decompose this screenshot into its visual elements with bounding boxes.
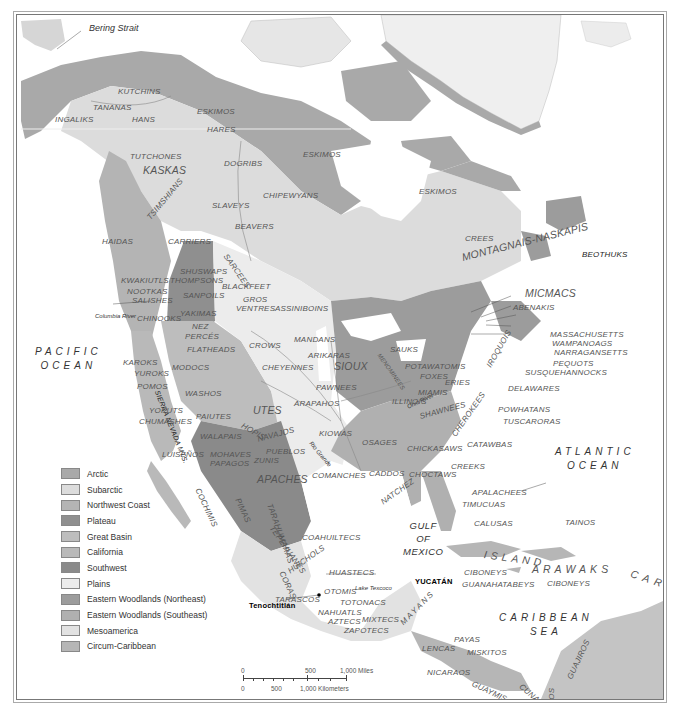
label-tarascos: TARASCOS [275, 596, 320, 604]
label-utes: UTES [253, 405, 282, 416]
gulf-of-mexico-label: GULFOFMEXICO [403, 520, 443, 558]
label-eskimos-nw: ESKIMOS [197, 108, 235, 116]
label-wampanoags: WAMPANOAGS [552, 340, 612, 348]
label-guanahatabeys: GUANAHATABEYS [462, 581, 535, 589]
legend-item-northwest-coast: Northwest Coast [61, 497, 207, 513]
label-creeks: CREEKS [451, 463, 485, 471]
label-choctaws: CHOCTAWS [409, 471, 457, 479]
label-ciboneys-e: CIBONEYS [547, 580, 590, 588]
label-beavers: BEAVERS [235, 223, 274, 231]
label-kutchins: KUTCHINS [118, 88, 161, 96]
label-tananas: TANANAS [93, 104, 132, 112]
label-hans: HANS [132, 116, 155, 124]
pacific-ocean-label: PACIFICOCEAN [35, 345, 102, 372]
label-tainos: TAINOS [565, 519, 595, 527]
label-tuscaroras: TUSCARORAS [503, 418, 561, 426]
label-washos: WASHOS [185, 390, 222, 398]
label-abenakis: ABENAKIS [513, 304, 555, 312]
legend-item-great-basin: Great Basin [61, 529, 207, 545]
label-delawares: DELAWARES [508, 385, 560, 393]
label-mohaves: MOHAVES [210, 451, 251, 459]
label-totonacs: TOTONACS [340, 599, 386, 607]
label-karoks: KAROKS [123, 359, 158, 367]
yucatan-label: YUCATÁN [415, 578, 453, 586]
legend: Arctic Subarctic Northwest Coast Plateau… [61, 466, 207, 654]
swatch-northwest-coast [61, 500, 80, 511]
scale-bar: 0 500 1,000 Miles 0 500 1,000 Kilometers [240, 667, 385, 697]
label-nicaraos: NICARAOS [427, 669, 470, 677]
label-chickasaws: CHICKASAWS [407, 445, 463, 453]
label-nahuatls: NAHUATLS [318, 609, 362, 617]
label-yuroks: YUROKS [134, 370, 169, 378]
columbia-river-label: Columbia River [95, 313, 136, 319]
swatch-arctic [61, 468, 80, 479]
label-ventres: VENTRES [236, 305, 275, 313]
label-crows: CROWS [249, 342, 281, 350]
label-miamis: MIAMIS [418, 389, 448, 397]
label-cheyennes: CHEYENNES [262, 364, 314, 372]
bering-strait-label: Bering Strait [89, 23, 139, 33]
label-carriers: CARRIERS [168, 238, 211, 246]
label-sanpoils: SANPOILS [183, 292, 225, 300]
label-kiowas: KIOWAS [319, 430, 352, 438]
swatch-great-basin [61, 531, 80, 542]
caribbean-sea-label: CARIBBEANSEA [499, 611, 593, 638]
legend-item-california: California [61, 544, 207, 560]
legend-item-mesoamerica: Mesoamerica [61, 623, 207, 639]
legend-item-plateau: Plateau [61, 513, 207, 529]
lake-texcoco-label: Lake Texcoco [355, 585, 392, 591]
swatch-southwest [61, 562, 80, 573]
label-crees: CREES [465, 235, 494, 243]
label-tutchones: TUTCHONES [130, 153, 182, 161]
label-pequots: PEQUOTS [553, 360, 594, 368]
label-eskimos-e: ESKIMOS [419, 188, 457, 196]
label-sauks: SAUKS [390, 346, 418, 354]
label-apalachees: APALACHEES [472, 489, 527, 497]
legend-item-subarctic: Subarctic [61, 482, 207, 498]
label-sioux: SIOUX [334, 361, 368, 372]
label-zunis: ZUNIS [254, 457, 279, 465]
label-chinooks: CHINOOKS [137, 315, 181, 323]
label-arikaras: ARIKARAS [308, 352, 350, 360]
label-yokuts: YOKUTS [149, 407, 183, 415]
label-luisenos: LUISEÑOS [162, 451, 204, 459]
label-hares: HARES [207, 126, 236, 134]
label-timucuas: TIMUCUAS [462, 501, 505, 509]
label-kwakiutls: KWAKIUTLS [121, 277, 169, 285]
legend-item-southwest: Southwest [61, 560, 207, 576]
label-nootkas: NOOTKAS [127, 288, 168, 296]
label-pueblos: PUEBLOS [266, 448, 305, 456]
label-nez: NEZ [192, 323, 209, 331]
label-walapais: WALAPAIS [200, 433, 242, 441]
label-chipewyans: CHIPEWYANS [263, 192, 318, 200]
label-mixtecs: MIXTECS [362, 616, 399, 624]
label-foxes: FOXES [420, 373, 448, 381]
label-beothuks: BEOTHUKS [582, 251, 628, 259]
label-apaches: APACHES [257, 474, 308, 485]
label-miskitos: MISKITOS [467, 649, 507, 657]
label-paiutes: PAIUTES [196, 413, 231, 421]
label-eries: ERIES [445, 379, 470, 387]
label-yakimas: YAKIMAS [180, 310, 217, 318]
swatch-eastern-woodlands-ne [61, 594, 80, 605]
label-micmacs: MICMACS [525, 288, 576, 299]
label-aztecs: AZTECS [328, 618, 361, 626]
label-kaskas: KASKAS [143, 165, 186, 176]
legend-item-plains: Plains [61, 576, 207, 592]
label-dogribs: DOGRIBS [224, 160, 262, 168]
label-powhatans: POWHATANS [498, 406, 550, 414]
label-mandans: MANDANS [294, 336, 335, 344]
label-thompsons: THOMPSONS [170, 277, 223, 285]
label-illinois: ILLINOIS [392, 398, 427, 406]
swatch-circum-caribbean [61, 641, 80, 652]
label-modocs: MODOCS [172, 364, 209, 372]
label-otomis: OTOMIS [324, 588, 357, 596]
atlantic-ocean-label: ATLANTICOCEAN [555, 445, 635, 472]
label-blackfeet: BLACKFEET [222, 283, 270, 291]
label-massachusetts: MASSACHUSETTS [550, 331, 624, 339]
label-narragansetts: NARRAGANSETTS [554, 349, 628, 357]
label-salishes: SALISHES [132, 297, 173, 305]
label-osages: OSAGES [362, 439, 397, 447]
swatch-plains [61, 578, 80, 589]
label-eskimos-c: ESKIMOS [303, 151, 341, 159]
